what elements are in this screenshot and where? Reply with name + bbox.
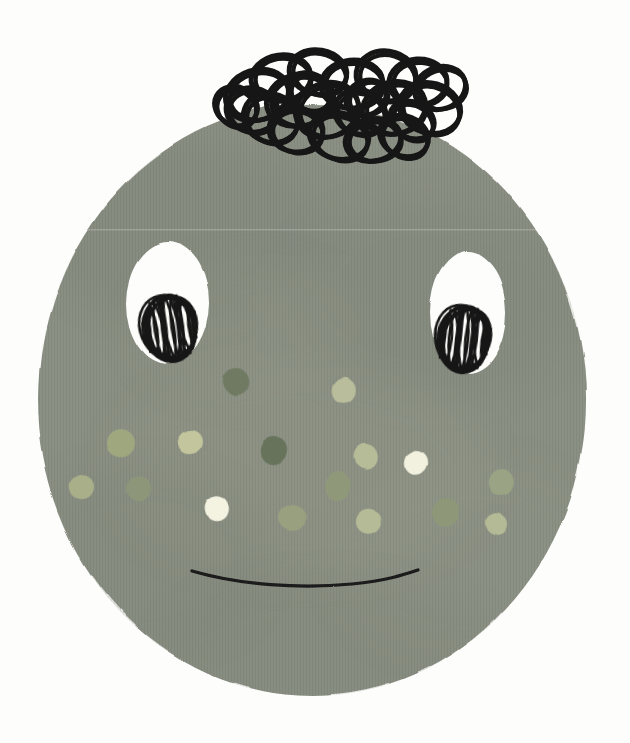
artwork-canvas: Illustrated Face with Scribble Hair mixe…: [0, 0, 630, 743]
face-illustration: [0, 0, 630, 743]
